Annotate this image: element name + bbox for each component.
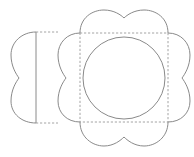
center-fold-square <box>80 33 168 122</box>
bottom-scallops <box>80 122 168 146</box>
side-flap-piece <box>11 32 58 123</box>
right-scallops <box>168 33 190 122</box>
main-flower-piece <box>58 10 190 146</box>
top-scallops <box>80 10 168 33</box>
inner-circle-window <box>83 37 165 119</box>
side-flap-scallop-outline <box>11 32 36 123</box>
left-scallops <box>58 33 80 122</box>
diagram-canvas <box>0 0 194 157</box>
